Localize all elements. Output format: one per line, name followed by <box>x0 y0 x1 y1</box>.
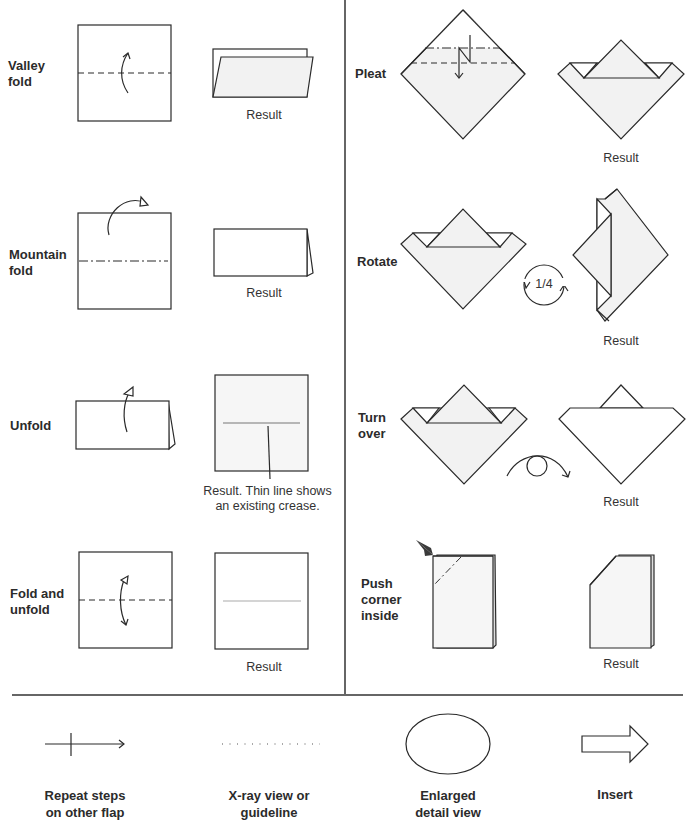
hollow-arrow-icon <box>0 0 695 834</box>
legend-insert-label: Insert <box>560 786 670 803</box>
